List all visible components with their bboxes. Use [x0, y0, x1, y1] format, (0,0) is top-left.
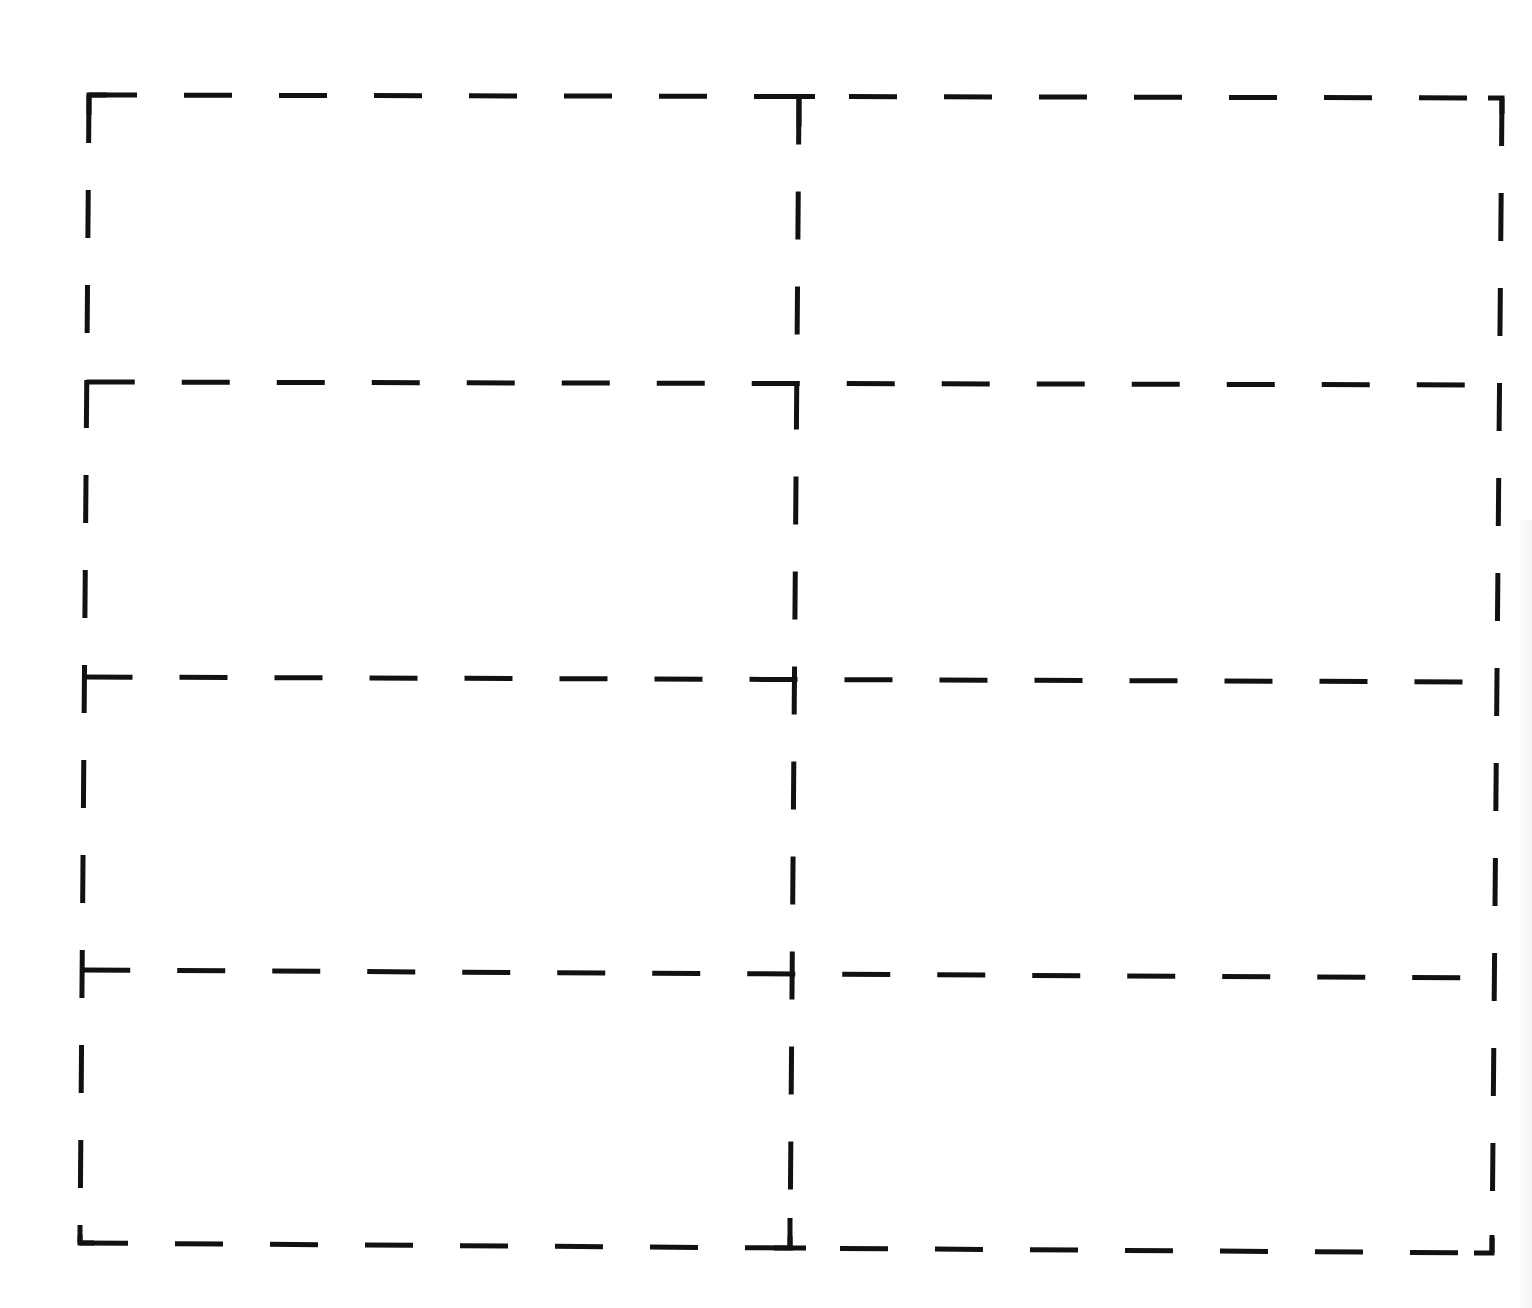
label-cell-r3c2 — [803, 681, 1498, 966]
label-template-grid — [0, 0, 1532, 1308]
label-cell-r2c1 — [93, 386, 795, 673]
label-cell-r1c2 — [803, 99, 1498, 378]
label-cell-r1c1 — [93, 99, 795, 378]
cut-line-horizontal — [87, 382, 1500, 385]
label-cell-r3c1 — [93, 681, 795, 966]
label-cell-r4c1 — [93, 974, 795, 1239]
label-cell-r2c2 — [803, 386, 1498, 673]
corner-mark-bottom-left — [80, 1225, 94, 1243]
label-cell-r4c2 — [803, 974, 1498, 1239]
cut-line-left — [80, 95, 89, 1243]
